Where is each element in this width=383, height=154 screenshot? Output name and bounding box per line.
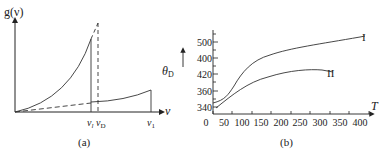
b-curve-II: [216, 70, 333, 108]
a-dashed-linear: [15, 103, 91, 112]
svg-text:340: 340: [197, 102, 212, 113]
svg-text:400: 400: [353, 117, 368, 128]
figure-canvas: g(ν) ν νl νD ν1 (a): [0, 0, 383, 154]
svg-text:50: 50: [219, 117, 229, 128]
a-mark-nu-l: νl: [87, 117, 93, 130]
a-mark-nu-1: ν1: [147, 117, 155, 130]
a-dashed-extension: [91, 23, 98, 39]
b-xlabel: T: [371, 99, 379, 113]
b-y-ticks: [213, 34, 218, 107]
a-curve-upper: [91, 90, 151, 102]
panel-a: g(ν) ν νl νD ν1 (a): [4, 5, 171, 149]
b-x-tick-labels: 0 50 100 150 200 250 300 350 400: [204, 117, 368, 128]
svg-text:250: 250: [293, 117, 308, 128]
svg-text:100: 100: [235, 117, 250, 128]
svg-text:150: 150: [254, 117, 269, 128]
svg-text:420: 420: [197, 69, 212, 80]
panel-b: 500 400 420 360 340 0 50 100 150 200 250…: [162, 30, 379, 149]
a-xlabel: ν: [165, 104, 171, 118]
svg-text:350: 350: [333, 117, 348, 128]
svg-text:0: 0: [204, 117, 209, 128]
svg-text:200: 200: [274, 117, 289, 128]
b-ylabel: θD: [162, 64, 174, 79]
b-series-label-I: I: [362, 31, 366, 43]
a-curve-quadratic: [15, 39, 91, 112]
b-y-tick-labels: 500 400 420 360 340: [197, 37, 212, 113]
svg-text:300: 300: [313, 117, 328, 128]
b-series-label-II: II: [327, 67, 335, 79]
svg-text:500: 500: [197, 37, 212, 48]
a-mark-nu-d: νD: [96, 117, 106, 130]
b-caption: (b): [280, 136, 293, 149]
a-ylabel: g(ν): [4, 5, 23, 19]
a-caption: (a): [78, 136, 91, 149]
svg-text:400: 400: [197, 53, 212, 64]
svg-text:360: 360: [197, 86, 212, 97]
